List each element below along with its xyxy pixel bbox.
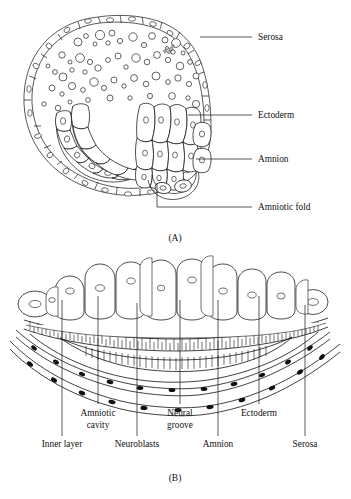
label-amniotic-cavity-line2: cavity [87,420,110,430]
label-amnion-a: Amnion [258,154,289,164]
label-amniotic-fold: Amniotic fold [258,202,311,212]
label-serosa-b: Serosa [293,439,318,449]
label-neural-groove-line2: groove [167,420,193,430]
label-ectoderm-a: Ectoderm [258,110,295,120]
label-serosa-a: Serosa [258,32,283,42]
label-neuroblasts: Neuroblasts [115,439,160,449]
label-amniotic-cavity-line1: Amniotic [80,408,115,418]
label-neural-groove-line1: Neural [167,408,193,418]
caption-panel-b: (B) [169,473,182,484]
embryology-figure: Serosa Ectoderm Amnion Amniotic fold (A) [0,0,351,499]
label-ectoderm-b: Ectoderm [241,408,278,418]
label-inner-layer: Inner layer [42,439,83,449]
label-amnion-b: Amnion [203,439,234,449]
caption-panel-a: (A) [168,233,181,244]
